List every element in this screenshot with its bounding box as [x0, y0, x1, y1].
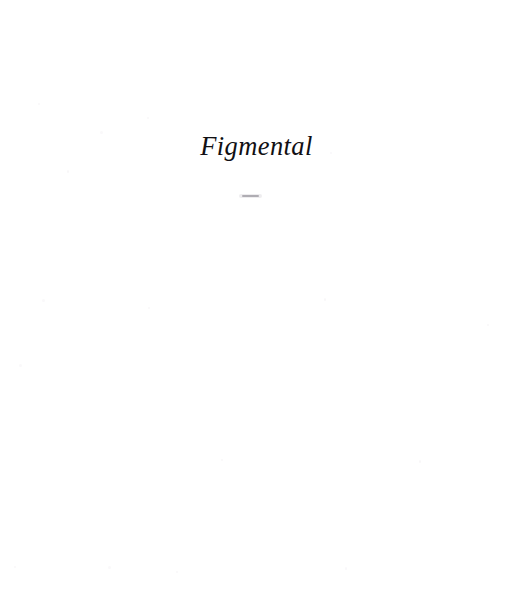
- book-half-title-page: Figmental: [0, 0, 513, 590]
- page-title: Figmental: [0, 132, 513, 161]
- ornament-container: [0, 183, 513, 201]
- title-block: Figmental: [0, 132, 513, 161]
- horizontal-rule-ornament-icon: [242, 195, 259, 197]
- paper-texture: [0, 0, 513, 590]
